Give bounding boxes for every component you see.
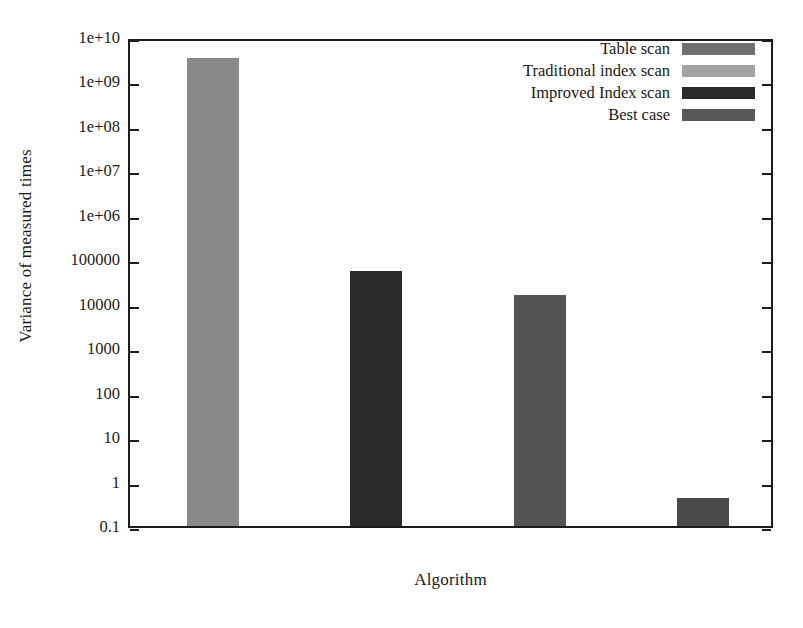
y-axis-tick-right bbox=[762, 40, 771, 42]
y-axis-tick bbox=[130, 529, 139, 531]
y-axis-tick bbox=[130, 218, 139, 220]
y-axis-tick-right bbox=[762, 396, 771, 398]
y-axis-tick bbox=[130, 485, 139, 487]
y-axis-tick-label: 100000 bbox=[8, 252, 120, 268]
y-axis-tick-label: 0.1 bbox=[8, 519, 120, 535]
legend-label: Best case bbox=[608, 106, 670, 124]
legend-item: Table scan bbox=[459, 38, 755, 60]
y-axis-tick-label: 10 bbox=[8, 430, 120, 446]
chart-legend: Table scanTraditional index scanImproved… bbox=[459, 38, 755, 126]
y-axis-tick-right bbox=[762, 351, 771, 353]
legend-label: Table scan bbox=[600, 40, 670, 58]
legend-label: Traditional index scan bbox=[523, 62, 670, 80]
plot-area: Table scanTraditional index scanImproved… bbox=[128, 39, 773, 528]
legend-swatch bbox=[682, 43, 755, 55]
y-axis-tick-right bbox=[762, 218, 771, 220]
y-axis-tick bbox=[130, 40, 139, 42]
x-axis-title: Algorithm bbox=[128, 570, 773, 590]
y-axis-tick bbox=[130, 84, 139, 86]
y-axis-tick-label: 1 bbox=[8, 475, 120, 491]
y-axis-tick bbox=[130, 173, 139, 175]
bar-4 bbox=[677, 498, 729, 526]
y-axis-tick-label: 1e+09 bbox=[8, 74, 120, 90]
legend-swatch bbox=[682, 65, 755, 77]
y-axis-tick-label: 1e+07 bbox=[8, 163, 120, 179]
y-axis-title: Variance of measured times bbox=[16, 116, 36, 376]
legend-swatch bbox=[682, 109, 755, 121]
legend-item: Improved Index scan bbox=[459, 82, 755, 104]
y-axis-tick bbox=[130, 129, 139, 131]
y-axis-tick bbox=[130, 351, 139, 353]
y-axis-tick bbox=[130, 440, 139, 442]
y-axis-tick-right bbox=[762, 129, 771, 131]
legend-item: Traditional index scan bbox=[459, 60, 755, 82]
y-axis-tick-right bbox=[762, 529, 771, 531]
y-axis-tick bbox=[130, 307, 139, 309]
y-axis-tick-right bbox=[762, 440, 771, 442]
bar-3 bbox=[514, 295, 566, 526]
legend-swatch bbox=[682, 87, 755, 99]
bar-1 bbox=[187, 58, 239, 526]
y-axis-tick-right bbox=[762, 307, 771, 309]
y-axis-tick-label: 10000 bbox=[8, 297, 120, 313]
y-axis-tick bbox=[130, 262, 139, 264]
bar-2 bbox=[350, 271, 402, 526]
y-axis-tick-right bbox=[762, 173, 771, 175]
legend-label: Improved Index scan bbox=[531, 84, 670, 102]
y-axis-tick-label: 1e+08 bbox=[8, 119, 120, 135]
legend-item: Best case bbox=[459, 104, 755, 126]
y-axis-tick-right bbox=[762, 84, 771, 86]
y-axis-tick bbox=[130, 396, 139, 398]
y-axis-tick-label: 1000 bbox=[8, 341, 120, 357]
chart-figure: Variance of measured times 1e+101e+091e+… bbox=[0, 0, 803, 628]
y-axis-tick-right bbox=[762, 262, 771, 264]
y-axis-tick-label: 1e+06 bbox=[8, 208, 120, 224]
y-axis-tick-label: 1e+10 bbox=[8, 30, 120, 46]
y-axis-tick-label: 100 bbox=[8, 386, 120, 402]
y-axis-tick-right bbox=[762, 485, 771, 487]
